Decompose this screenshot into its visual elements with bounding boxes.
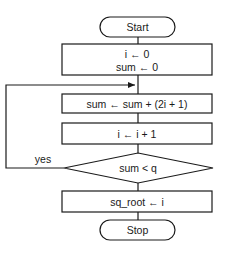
init-line1: i ← 0 [62,48,212,60]
stop-label: Stop [100,224,175,236]
decision-label: sum < q [88,162,188,174]
init-line2: sum ← 0 [62,61,212,73]
yes-label: yes [32,153,54,165]
flowchart-canvas [0,0,229,254]
increment-label: i ← i + 1 [62,128,212,140]
update-sum-label: sum ← sum + (2i + 1) [62,98,212,110]
assign-result-label: sq_root ← i [62,196,212,208]
start-label: Start [100,21,175,33]
